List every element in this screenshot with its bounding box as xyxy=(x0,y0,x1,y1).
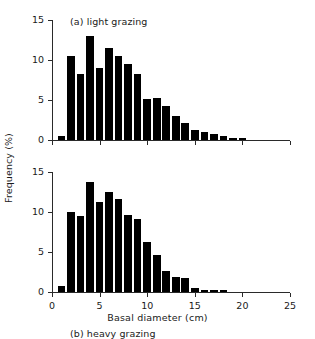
bar-series-a xyxy=(52,20,290,140)
bar xyxy=(201,132,209,140)
bar xyxy=(172,277,180,292)
plot-area-a: 051015 xyxy=(52,20,290,140)
y-tick-label: 0 xyxy=(38,134,44,145)
x-tick xyxy=(100,141,101,145)
bar xyxy=(143,242,151,292)
bar xyxy=(58,286,66,292)
bar xyxy=(201,290,209,292)
plot-area-b: 051015 0510152025 xyxy=(52,172,290,292)
x-tick xyxy=(242,293,243,297)
bar xyxy=(191,130,199,140)
bar xyxy=(77,216,85,292)
bar xyxy=(181,278,189,292)
bar xyxy=(115,199,123,292)
bar xyxy=(86,182,94,292)
y-tick-label: 5 xyxy=(38,94,44,105)
bar xyxy=(124,64,132,140)
y-tick-label: 15 xyxy=(32,14,44,25)
y-tick-label: 15 xyxy=(32,166,44,177)
x-tick xyxy=(195,141,196,145)
y-tick: 5 xyxy=(48,100,52,101)
bar xyxy=(143,99,151,140)
bar xyxy=(86,36,94,140)
x-tick xyxy=(52,293,53,297)
x-axis-b xyxy=(52,292,290,293)
x-tick-label: 10 xyxy=(141,300,153,311)
x-tick xyxy=(147,141,148,145)
x-tick-label: 5 xyxy=(97,300,103,311)
x-tick-label: 25 xyxy=(284,300,296,311)
bar xyxy=(67,56,75,140)
x-axis-label: Basal diameter (cm) xyxy=(0,312,315,323)
bar xyxy=(134,74,142,140)
y-tick: 5 xyxy=(48,252,52,253)
panel-heavy-grazing: (b) heavy grazing 051015 0510152025 xyxy=(0,160,315,310)
x-tick xyxy=(242,141,243,145)
y-tick-label: 0 xyxy=(38,286,44,297)
bar xyxy=(191,288,199,292)
bar xyxy=(124,215,132,292)
bar xyxy=(77,74,85,140)
bar xyxy=(220,136,228,140)
x-tick-label: 20 xyxy=(236,300,248,311)
x-tick xyxy=(195,293,196,297)
bar xyxy=(172,116,180,140)
y-tick-label: 10 xyxy=(32,206,44,217)
bar xyxy=(58,136,66,140)
bar xyxy=(153,98,161,140)
bar xyxy=(115,56,123,140)
bar xyxy=(67,212,75,292)
bar xyxy=(105,48,113,140)
panel-light-grazing: (a) light grazing 051015 xyxy=(0,0,315,160)
bar xyxy=(229,138,237,140)
y-tick-label: 5 xyxy=(38,246,44,257)
panel-b-title: (b) heavy grazing xyxy=(70,328,156,339)
bar xyxy=(239,138,247,140)
x-tick xyxy=(100,293,101,297)
x-tick xyxy=(290,141,291,145)
bar xyxy=(153,255,161,292)
bar xyxy=(134,219,142,292)
x-tick xyxy=(290,293,291,297)
y-tick: 15 xyxy=(48,172,52,173)
x-tick xyxy=(147,293,148,297)
bar xyxy=(162,271,170,292)
bar xyxy=(96,68,104,140)
x-tick-label: 0 xyxy=(49,300,55,311)
x-tick xyxy=(52,141,53,145)
y-tick: 10 xyxy=(48,212,52,213)
bar xyxy=(96,202,104,292)
bar xyxy=(105,192,113,292)
bar xyxy=(181,123,189,140)
bar xyxy=(210,134,218,140)
y-tick: 10 xyxy=(48,60,52,61)
bar xyxy=(162,106,170,140)
bar-series-b xyxy=(52,172,290,292)
y-tick-label: 10 xyxy=(32,54,44,65)
y-tick: 15 xyxy=(48,20,52,21)
x-axis-a xyxy=(52,140,290,141)
bar xyxy=(210,290,218,292)
bar xyxy=(220,290,228,292)
x-tick-label: 15 xyxy=(189,300,201,311)
